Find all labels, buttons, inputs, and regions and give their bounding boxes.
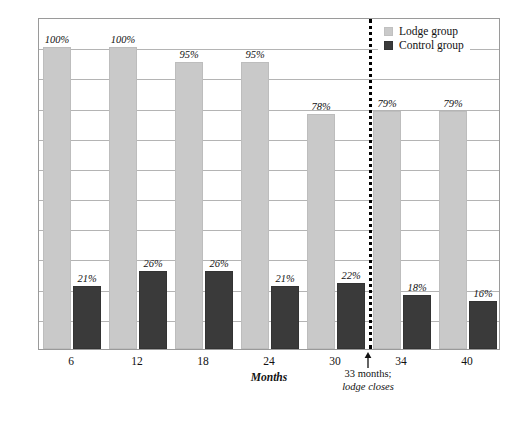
bar-value-label: 26%	[197, 258, 241, 269]
x-tick-label: 40	[442, 355, 492, 367]
legend-swatch-icon	[384, 41, 393, 50]
bar-value-label: 22%	[329, 270, 373, 281]
bar-control-group	[403, 295, 431, 349]
bar-control-group	[73, 286, 101, 349]
annotation-line-2: lodge closes	[303, 381, 433, 394]
bar-control-group	[139, 271, 167, 349]
bar-lodge-group	[307, 114, 335, 349]
bar-value-label: 16%	[461, 288, 505, 299]
bar-lodge-group	[43, 47, 71, 349]
bar-lodge-group	[175, 62, 203, 349]
bar-control-group	[205, 271, 233, 349]
x-tick-label: 30	[310, 355, 360, 367]
bar-value-label: 18%	[395, 282, 439, 293]
bar-value-label: 100%	[101, 34, 145, 45]
x-tick-label: 18	[178, 355, 228, 367]
bar-value-label: 100%	[35, 34, 79, 45]
bar-value-label: 79%	[431, 98, 475, 109]
bar-control-group	[271, 286, 299, 349]
x-tick-label: 12	[112, 355, 162, 367]
x-tick-label: 24	[244, 355, 294, 367]
legend-item: Lodge group	[384, 24, 464, 38]
x-tick-label: 6	[46, 355, 96, 367]
legend-item-label: Control group	[399, 38, 464, 52]
bar-value-label: 78%	[299, 101, 343, 112]
bar-value-label: 21%	[263, 273, 307, 284]
annotation-line-1: 33 months;	[303, 368, 433, 381]
bar-value-label: 26%	[131, 258, 175, 269]
lodge-closure-arrow-icon	[361, 352, 375, 368]
plot-area: 100%21%100%26%95%26%95%21%78%22%79%18%79…	[38, 18, 500, 350]
bar-value-label: 95%	[233, 49, 277, 60]
x-tick-label: 34	[376, 355, 426, 367]
bar-control-group	[469, 301, 497, 349]
bars-layer: 100%21%100%26%95%26%95%21%78%22%79%18%79…	[39, 19, 499, 349]
x-axis-title: Months	[224, 371, 314, 383]
bar-value-label: 21%	[65, 273, 109, 284]
lodge-closure-annotation: 33 months; lodge closes	[303, 368, 433, 393]
chart-legend: Lodge groupControl group	[378, 21, 470, 56]
bar-lodge-group	[241, 62, 269, 349]
bar-lodge-group	[373, 111, 401, 349]
bar-value-label: 95%	[167, 49, 211, 60]
bar-control-group	[337, 283, 365, 349]
legend-swatch-icon	[384, 27, 393, 36]
lodge-closure-divider-line	[369, 19, 372, 349]
legend-item-label: Lodge group	[399, 24, 458, 38]
bar-lodge-group	[439, 111, 467, 349]
legend-item: Control group	[384, 38, 464, 52]
bar-lodge-group	[109, 47, 137, 349]
chart-figure: Median Percentage of Time in Community 1…	[0, 0, 522, 426]
